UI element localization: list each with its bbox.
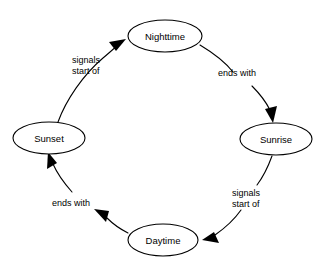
- edge-daytime-to-sunset-path-upper: [53, 164, 72, 192]
- edge-nighttime-to-sunrise-label-line1: ends with: [218, 68, 256, 78]
- edge-sunrise-to-daytime-path-lower: [215, 210, 241, 235]
- edge-nighttime-to-sunrise-arrowhead: [265, 106, 277, 123]
- edge-nighttime-to-sunrise: ends with: [200, 45, 277, 123]
- edge-sunrise-to-daytime-label-line2: start of: [232, 199, 260, 209]
- edge-nighttime-to-sunrise-path-lower: [252, 86, 270, 110]
- node-sunset-label: Sunset: [34, 133, 64, 144]
- edge-sunset-to-nighttime: signals start of: [58, 39, 126, 122]
- edge-sunset-to-nighttime-label: signals start of: [72, 55, 103, 76]
- edge-sunset-to-nighttime-arrowhead: [109, 39, 126, 51]
- edge-daytime-to-sunset-path: [107, 218, 128, 233]
- cycle-diagram-canvas: signals start of ends with signals start…: [0, 0, 323, 269]
- edge-sunset-to-nighttime-label-line1: signals: [72, 55, 101, 65]
- edge-daytime-to-sunset-label: ends with: [52, 198, 90, 208]
- edge-daytime-to-sunset-arrowhead-mid: [94, 209, 109, 222]
- node-daytime[interactable]: Daytime: [128, 224, 198, 256]
- edge-sunrise-to-daytime-path: [257, 156, 272, 185]
- node-sunrise-label: Sunrise: [260, 134, 292, 145]
- cycle-diagram-svg: signals start of ends with signals start…: [0, 0, 323, 269]
- node-nighttime-label: Nighttime: [145, 31, 185, 42]
- edge-sunrise-to-daytime: signals start of: [202, 156, 272, 243]
- edge-daytime-to-sunset-arrowhead: [47, 152, 57, 169]
- edge-sunset-to-nighttime-label-line2: start of: [72, 66, 100, 76]
- edge-nighttime-to-sunrise-label: ends with: [218, 68, 256, 78]
- edge-daytime-to-sunset-label-line1: ends with: [52, 198, 90, 208]
- node-nighttime[interactable]: Nighttime: [128, 20, 202, 52]
- node-sunrise[interactable]: Sunrise: [240, 123, 312, 155]
- edge-daytime-to-sunset: ends with: [47, 152, 128, 233]
- node-daytime-label: Daytime: [146, 235, 181, 246]
- edge-sunrise-to-daytime-label-line1: signals: [232, 188, 261, 198]
- node-sunset[interactable]: Sunset: [13, 122, 85, 154]
- edge-sunrise-to-daytime-label: signals start of: [232, 188, 263, 209]
